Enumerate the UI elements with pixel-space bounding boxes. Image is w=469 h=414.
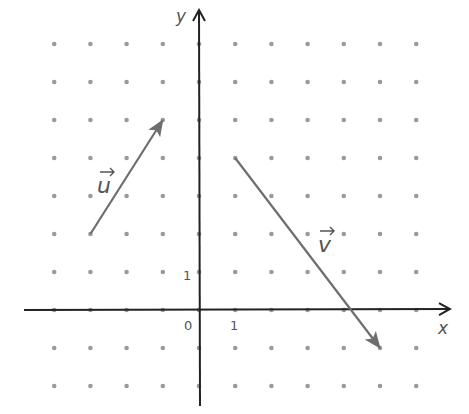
- grid-dot: [414, 80, 419, 85]
- grid-dot: [342, 118, 347, 123]
- grid-dot: [88, 384, 93, 389]
- grid-dot: [161, 156, 166, 161]
- grid-dot: [269, 232, 274, 237]
- y-axis: [199, 10, 200, 406]
- grid-dot: [378, 270, 383, 275]
- grid-dot: [269, 156, 274, 161]
- grid-dot: [305, 42, 310, 47]
- grid-dot: [305, 194, 310, 199]
- grid-dot: [378, 194, 383, 199]
- grid-dot: [269, 270, 274, 275]
- dot-grid: [52, 42, 419, 389]
- grid-dot: [305, 346, 310, 351]
- grid-dot: [52, 118, 57, 123]
- grid-dot: [378, 42, 383, 47]
- grid-dot: [124, 156, 129, 161]
- grid-dot: [161, 80, 166, 85]
- grid-dot: [378, 232, 383, 237]
- x-unit-label: 1: [230, 318, 238, 333]
- grid-dot: [88, 194, 93, 199]
- grid-dot: [233, 80, 238, 85]
- grid-dot: [124, 42, 129, 47]
- grid-dot: [124, 194, 129, 199]
- grid-dot: [52, 270, 57, 275]
- x-axis: [24, 309, 450, 310]
- grid-dot: [124, 80, 129, 85]
- grid-dot: [52, 232, 57, 237]
- grid-dot: [52, 80, 57, 85]
- origin-label: 0: [184, 318, 192, 333]
- vector-u-label: u: [97, 168, 114, 198]
- vector-diagram: y x 0 1 1 u v: [0, 0, 469, 414]
- grid-dot: [342, 232, 347, 237]
- grid-dot: [378, 80, 383, 85]
- grid-dot: [414, 346, 419, 351]
- grid-dot: [269, 384, 274, 389]
- grid-dot: [124, 232, 129, 237]
- vector-v: [235, 158, 380, 348]
- svg-text:v: v: [318, 232, 332, 257]
- grid-dot: [88, 156, 93, 161]
- grid-dot: [305, 270, 310, 275]
- grid-dot: [233, 270, 238, 275]
- y-unit-label: 1: [183, 268, 191, 283]
- grid-dot: [124, 118, 129, 123]
- grid-dot: [414, 156, 419, 161]
- grid-dot: [233, 42, 238, 47]
- grid-dot: [342, 42, 347, 47]
- grid-dot: [124, 384, 129, 389]
- grid-dot: [52, 346, 57, 351]
- grid-dot: [414, 42, 419, 47]
- grid-dot: [52, 42, 57, 47]
- grid-dot: [233, 118, 238, 123]
- grid-dot: [52, 156, 57, 161]
- grid-dot: [161, 232, 166, 237]
- grid-dot: [342, 270, 347, 275]
- grid-dot: [88, 42, 93, 47]
- grid-dot: [161, 194, 166, 199]
- x-axis-label: x: [437, 318, 449, 338]
- grid-dot: [305, 118, 310, 123]
- grid-dot: [414, 384, 419, 389]
- grid-dot: [52, 194, 57, 199]
- grid-dot: [342, 346, 347, 351]
- grid-dot: [269, 194, 274, 199]
- y-axis-label: y: [175, 6, 187, 26]
- grid-dot: [414, 118, 419, 123]
- grid-dot: [269, 346, 274, 351]
- grid-dot: [414, 194, 419, 199]
- grid-dot: [378, 118, 383, 123]
- grid-dot: [414, 270, 419, 275]
- grid-dot: [378, 156, 383, 161]
- grid-dot: [305, 80, 310, 85]
- grid-dot: [233, 384, 238, 389]
- grid-dot: [88, 270, 93, 275]
- grid-dot: [88, 346, 93, 351]
- grid-dot: [161, 270, 166, 275]
- grid-dot: [414, 232, 419, 237]
- grid-dot: [269, 42, 274, 47]
- grid-dot: [305, 232, 310, 237]
- grid-dot: [233, 232, 238, 237]
- grid-dot: [233, 346, 238, 351]
- grid-dot: [161, 384, 166, 389]
- grid-dot: [378, 384, 383, 389]
- grid-dot: [269, 80, 274, 85]
- grid-dot: [52, 384, 57, 389]
- svg-text:u: u: [97, 173, 111, 198]
- grid-dot: [124, 270, 129, 275]
- grid-dot: [342, 80, 347, 85]
- grid-dot: [161, 346, 166, 351]
- grid-dot: [305, 384, 310, 389]
- grid-dot: [342, 156, 347, 161]
- grid-dot: [124, 346, 129, 351]
- grid-dot: [342, 384, 347, 389]
- grid-dot: [305, 156, 310, 161]
- grid-dot: [233, 194, 238, 199]
- grid-dot: [88, 118, 93, 123]
- grid-dot: [161, 42, 166, 47]
- grid-dot: [88, 80, 93, 85]
- grid-dot: [269, 118, 274, 123]
- vector-v-label: v: [318, 227, 334, 257]
- grid-dot: [342, 194, 347, 199]
